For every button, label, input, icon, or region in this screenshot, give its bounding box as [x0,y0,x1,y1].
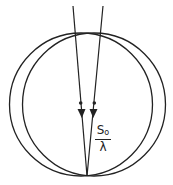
diagram-graphic [0,0,173,185]
left-beam-line [73,6,87,176]
left-beam-dot [79,101,83,105]
label-denominator: λ [95,140,111,154]
left-beam-arrow-icon [78,109,86,118]
right-beam-dot [93,101,97,105]
ewald-diagram: So λ [0,0,173,185]
s0-over-lambda-label: So λ [95,124,111,154]
label-numerator: So [95,124,111,140]
right-beam-arrow-icon [90,109,98,118]
